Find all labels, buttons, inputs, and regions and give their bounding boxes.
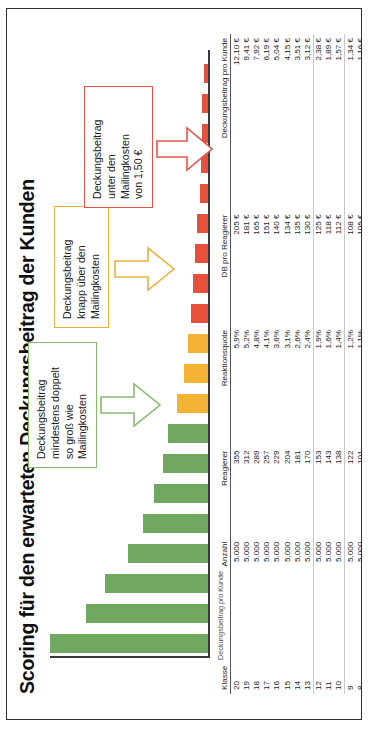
cell-klasse: 16 xyxy=(272,626,282,694)
cell-db_kunde: 5,04 € xyxy=(272,34,282,210)
cell-db_reagierer: 140 € xyxy=(272,210,282,326)
cell-klasse: 9 xyxy=(345,626,356,694)
callout-orange-line-2: Mailingkosten xyxy=(89,215,103,319)
col-header-anzahl: Anzahl xyxy=(220,538,231,626)
callout-green-line-2: so groß wie xyxy=(63,351,77,459)
cell-db_kunde: 1,89 € xyxy=(324,34,334,210)
table-row: 125.0001531,9%125 €2,38 € xyxy=(313,34,324,694)
cell-db_reagierer: 181 € xyxy=(241,210,251,326)
cell-db_reagierer: 205 € xyxy=(231,210,242,326)
cell-reagierer: 122 xyxy=(345,447,356,538)
cell-db_kunde: 12,10 € xyxy=(231,34,242,210)
cell-anzahl: 5.000 xyxy=(324,538,334,626)
callout-green-line-0: Deckungsbeitrag xyxy=(35,351,49,459)
cell-klasse: 18 xyxy=(251,626,261,694)
table-row: 95.0001221,2%108 €1,34 € xyxy=(345,34,356,694)
cell-quote: 2,6% xyxy=(292,326,302,446)
cell-db_kunde: 9,41 € xyxy=(241,34,251,210)
cell-anzahl: 5.000 xyxy=(231,538,242,626)
cell-db_reagierer: 135 € xyxy=(292,210,302,326)
cell-quote: 4,1% xyxy=(262,326,272,446)
cell-db_kunde: 1,16 € xyxy=(355,34,362,210)
callout-red-line-1: unter den xyxy=(105,95,119,199)
table-row: 185.0002894,8%165 €7,92 € xyxy=(251,34,261,694)
cell-anzahl: 5.000 xyxy=(313,538,324,626)
col-header-reagierer: Reagierer xyxy=(220,447,231,538)
cell-db_reagierer: 125 € xyxy=(313,210,324,326)
cell-klasse: 14 xyxy=(292,626,302,694)
rotated-slide-wrapper: Scoring für den erwarteten Deckungsbeitr… xyxy=(6,8,362,720)
cell-db_reagierer: 118 € xyxy=(324,210,334,326)
callout-red-line-3: von 1,50 € xyxy=(132,95,146,199)
callout-red-line-2: Mailingkosten xyxy=(119,95,133,199)
col-header-reaktionsquote: Reaktionsquote xyxy=(220,326,231,446)
bar-klasse-18 xyxy=(105,574,208,593)
cell-db_reagierer: 165 € xyxy=(251,210,261,326)
cell-klasse: 13 xyxy=(302,626,313,694)
table-row: 105.0001381,4%112 €1,57 € xyxy=(334,34,345,694)
bar-klasse-14 xyxy=(163,454,209,473)
cell-anzahl: 5.000 xyxy=(345,538,356,626)
bar-klasse-5 xyxy=(200,184,209,203)
cell-quote: 3,1% xyxy=(282,326,292,446)
cell-klasse: 20 xyxy=(231,626,242,694)
bar-klasse-17 xyxy=(128,544,209,563)
table-row: 135.0001702,4%130 €3,12 € xyxy=(302,34,313,694)
table-row: 195.0003125,2%181 €9,41 € xyxy=(241,34,251,694)
cell-reagierer: 143 xyxy=(324,447,334,538)
scoring-table: Klasse Anzahl Reagierer Reaktionsquote D… xyxy=(220,34,362,694)
cell-anzahl: 5.000 xyxy=(272,538,282,626)
cell-quote: 5,2% xyxy=(241,326,251,446)
cell-quote: 5,9% xyxy=(231,326,242,446)
cell-reagierer: 289 xyxy=(251,447,261,538)
table-row: 205.0003555,9%205 €12,10 € xyxy=(231,34,242,694)
cell-reagierer: 312 xyxy=(241,447,251,538)
callout-green-line-1: mindestens doppelt xyxy=(49,351,63,459)
table-row: 165.0002293,6%140 €5,04 € xyxy=(272,34,282,694)
bar-klasse-9 xyxy=(191,304,208,323)
bar-klasse-6 xyxy=(197,214,208,233)
cell-anzahl: 5.000 xyxy=(292,538,302,626)
cell-quote: 1,2% xyxy=(345,326,356,446)
cell-reagierer: 257 xyxy=(262,447,272,538)
cell-db_reagierer: 130 € xyxy=(302,210,313,326)
cell-klasse: 12 xyxy=(313,626,324,694)
cell-anzahl: 5.000 xyxy=(334,538,345,626)
bar-klasse-12 xyxy=(177,394,208,413)
table-row: 115.0001431,6%118 €1,89 € xyxy=(324,34,334,694)
bar-klasse-15 xyxy=(154,484,208,503)
cell-db_kunde: 4,15 € xyxy=(282,34,292,210)
callout-orange: Deckungsbeitragknapp über denMailingkost… xyxy=(54,206,109,328)
table-row: 85.0001011,1%105 €1,16 € xyxy=(355,34,362,694)
slide: Scoring für den erwarteten Deckungsbeitr… xyxy=(6,8,362,720)
col-header-klasse: Klasse xyxy=(220,626,231,694)
callout-orange-line-1: knapp über den xyxy=(75,215,89,319)
callout-orange-line-0: Deckungsbeitrag xyxy=(61,215,75,319)
col-header-deckungsbeitrag-pro-kunde: Deckungsbeitrag pro Kunde xyxy=(220,34,231,210)
table-body: 205.0003555,9%205 €12,10 €195.0003125,2%… xyxy=(231,34,363,694)
cell-anzahl: 5.000 xyxy=(262,538,272,626)
cell-db_reagierer: 112 € xyxy=(334,210,345,326)
cell-reagierer: 101 xyxy=(355,447,362,538)
cell-klasse: 10 xyxy=(334,626,345,694)
cell-reagierer: 138 xyxy=(334,447,345,538)
cell-quote: 4,8% xyxy=(251,326,261,446)
cell-klasse: 17 xyxy=(262,626,272,694)
bar-klasse-8 xyxy=(193,274,208,293)
cell-db_kunde: 1,34 € xyxy=(345,34,356,210)
cell-db_kunde: 2,38 € xyxy=(313,34,324,210)
callout-red: Deckungsbeitragunter denMailingkostenvon… xyxy=(84,86,153,208)
cell-db_kunde: 7,92 € xyxy=(251,34,261,210)
col-header-db-pro-reagierer: DB pro Reagierer xyxy=(220,210,231,326)
cell-db_kunde: 3,12 € xyxy=(302,34,313,210)
cell-reagierer: 229 xyxy=(272,447,282,538)
bar-klasse-2 xyxy=(202,94,208,113)
cell-anzahl: 5.000 xyxy=(355,538,362,626)
cell-db_reagierer: 151 € xyxy=(262,210,272,326)
cell-db_kunde: 3,51 € xyxy=(292,34,302,210)
cell-reagierer: 170 xyxy=(302,447,313,538)
cell-db_kunde: 6,19 € xyxy=(262,34,272,210)
cell-quote: 1,6% xyxy=(324,326,334,446)
bar-klasse-1 xyxy=(204,64,208,83)
cell-klasse: 19 xyxy=(241,626,251,694)
